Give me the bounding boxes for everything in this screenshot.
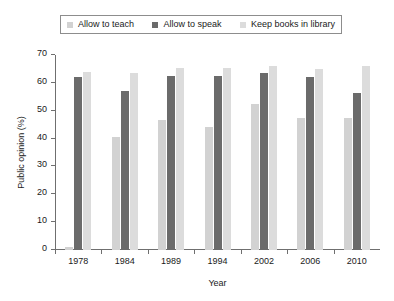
x-axis-tick bbox=[55, 250, 56, 254]
bar-group bbox=[112, 55, 138, 250]
bar-group bbox=[297, 55, 323, 250]
x-axis-tick bbox=[241, 250, 242, 254]
x-axis-tick bbox=[101, 250, 102, 254]
bar[interactable] bbox=[223, 68, 231, 250]
y-axis-tick: 10 bbox=[51, 221, 55, 222]
bar-group bbox=[251, 55, 277, 250]
x-axis-tick-label: 2002 bbox=[254, 256, 274, 267]
bar[interactable] bbox=[130, 73, 138, 250]
bar[interactable] bbox=[297, 118, 305, 250]
bar[interactable] bbox=[205, 127, 213, 250]
bar[interactable] bbox=[251, 104, 259, 250]
y-axis-tick-label: 70 bbox=[37, 48, 47, 59]
y-axis-tick-label: 60 bbox=[37, 76, 47, 87]
chart-figure: Allow to teachAllow to speakKeep books i… bbox=[0, 0, 394, 301]
bar[interactable] bbox=[65, 247, 73, 250]
bar[interactable] bbox=[315, 69, 323, 250]
bar[interactable] bbox=[158, 120, 166, 250]
x-axis-tick bbox=[287, 250, 288, 254]
y-axis-tick: 60 bbox=[51, 82, 55, 83]
bar[interactable] bbox=[269, 66, 277, 250]
legend-swatch-icon bbox=[152, 22, 158, 28]
x-axis-tick-label: 2010 bbox=[347, 256, 367, 267]
x-axis-tick-label: 1978 bbox=[68, 256, 88, 267]
bar[interactable] bbox=[260, 73, 268, 250]
bar[interactable] bbox=[306, 77, 314, 250]
y-axis-title-wrap: Public opinion (%) bbox=[6, 55, 20, 250]
bar[interactable] bbox=[83, 72, 91, 250]
x-axis-tick-label: 1984 bbox=[115, 256, 135, 267]
y-axis-tick-label: 50 bbox=[37, 104, 47, 115]
y-axis-tick: 40 bbox=[51, 138, 55, 139]
bar[interactable] bbox=[353, 93, 361, 250]
plot-area: 0102030405060701978198419891994200220062… bbox=[55, 55, 380, 250]
legend-entry[interactable]: Allow to speak bbox=[152, 20, 221, 29]
y-axis-tick-label: 0 bbox=[42, 243, 47, 254]
legend-entry[interactable]: Allow to teach bbox=[67, 20, 134, 29]
x-axis-tick-label: 1989 bbox=[161, 256, 181, 267]
y-axis-tick-label: 10 bbox=[37, 215, 47, 226]
x-axis-tick-label: 1994 bbox=[207, 256, 227, 267]
bar[interactable] bbox=[167, 76, 175, 250]
y-axis-tick: 50 bbox=[51, 110, 55, 111]
y-axis-line bbox=[55, 55, 56, 250]
x-axis-tick bbox=[148, 250, 149, 254]
bar[interactable] bbox=[362, 66, 370, 250]
legend-label: Allow to speak bbox=[163, 20, 221, 29]
bar[interactable] bbox=[344, 118, 352, 250]
y-axis-tick: 30 bbox=[51, 165, 55, 166]
bar-group bbox=[205, 55, 231, 250]
bar[interactable] bbox=[176, 68, 184, 250]
bar[interactable] bbox=[112, 137, 120, 250]
legend-entry[interactable]: Keep books in library bbox=[240, 20, 335, 29]
legend-swatch-icon bbox=[240, 22, 246, 28]
legend-label: Allow to teach bbox=[78, 20, 134, 29]
bar-group bbox=[158, 55, 184, 250]
legend-swatch-icon bbox=[67, 22, 73, 28]
x-axis-tick bbox=[194, 250, 195, 254]
bar[interactable] bbox=[121, 91, 129, 250]
x-axis-tick-label: 2006 bbox=[300, 256, 320, 267]
y-axis-title: Public opinion (%) bbox=[14, 55, 28, 250]
bar[interactable] bbox=[74, 77, 82, 250]
bar[interactable] bbox=[214, 76, 222, 250]
x-axis-title: Year bbox=[55, 278, 380, 289]
bar-group bbox=[65, 55, 91, 250]
y-axis-tick: 70 bbox=[51, 54, 55, 55]
y-axis-tick-label: 20 bbox=[37, 187, 47, 198]
chart-legend: Allow to teachAllow to speakKeep books i… bbox=[60, 15, 342, 34]
y-axis-tick-label: 30 bbox=[37, 159, 47, 170]
y-axis-tick: 20 bbox=[51, 193, 55, 194]
bar-group bbox=[344, 55, 370, 250]
x-axis-tick bbox=[334, 250, 335, 254]
legend-label: Keep books in library bbox=[251, 20, 335, 29]
y-axis-tick-label: 40 bbox=[37, 132, 47, 143]
